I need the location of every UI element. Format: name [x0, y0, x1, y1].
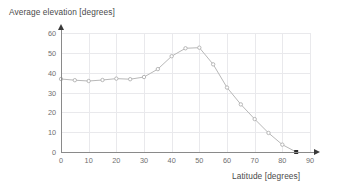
x-axis-tick-label: 60	[223, 156, 231, 165]
x-axis-tick-label: 0	[59, 156, 63, 165]
x-axis-tick-label: 10	[85, 156, 93, 165]
y-axis-line	[61, 30, 62, 152]
y-axis-tick-label: 40	[48, 68, 56, 77]
data-point-marker	[184, 47, 187, 50]
y-axis-tick-label: 20	[48, 108, 56, 117]
series-path	[61, 48, 296, 152]
data-point-marker	[211, 63, 214, 66]
x-axis-arrow-icon	[314, 149, 320, 155]
x-axis-tick-label: 30	[140, 156, 148, 165]
x-axis-title: Latitude [degrees]	[232, 171, 300, 181]
y-axis-tick-label: 0	[52, 148, 56, 157]
data-point-marker	[225, 86, 228, 89]
data-point-marker	[156, 67, 159, 70]
plot-area	[61, 33, 310, 152]
data-point-marker	[115, 77, 118, 80]
data-point-marker	[281, 143, 284, 146]
data-point-marker	[198, 46, 201, 49]
data-point-marker	[239, 103, 242, 106]
y-axis-tick-labels: 0102030405060	[36, 0, 56, 195]
x-axis-tick-label: 40	[168, 156, 176, 165]
chart-title: Average elevation [degrees]	[9, 7, 115, 17]
x-axis-tick-label: 90	[306, 156, 314, 165]
data-point-marker	[73, 79, 76, 82]
data-point-marker	[142, 75, 145, 78]
y-axis-tick-label: 30	[48, 88, 56, 97]
x-axis-tick-label: 50	[195, 156, 203, 165]
gridline-vertical	[310, 33, 311, 152]
x-axis-line	[61, 152, 315, 153]
y-axis-tick-label: 60	[48, 29, 56, 38]
chart-container: Average elevation [degrees] 010203040506…	[0, 0, 352, 195]
y-axis-tick-label: 50	[48, 48, 56, 57]
x-axis-tick-label: 80	[278, 156, 286, 165]
data-point-marker	[101, 78, 104, 81]
data-point-marker	[267, 131, 270, 134]
y-axis-arrow-icon	[58, 24, 64, 30]
data-point-marker	[87, 79, 90, 82]
series-line-average-elevation	[61, 33, 310, 152]
x-axis-tick-label: 70	[251, 156, 259, 165]
data-point-marker	[128, 78, 131, 81]
y-axis-tick-label: 10	[48, 128, 56, 137]
data-point-marker	[170, 55, 173, 58]
x-axis-tick-label: 20	[112, 156, 120, 165]
data-point-marker	[253, 117, 256, 120]
